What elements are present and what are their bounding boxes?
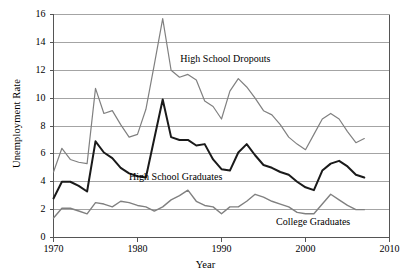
annotation-high-school-graduates: High School Graduates — [129, 171, 222, 182]
y-tick-label-8: 8 — [20, 120, 46, 131]
unemployment-rate-line-chart — [0, 0, 411, 280]
plot-svg — [0, 0, 411, 280]
x-tick-label-1990: 1990 — [202, 243, 242, 254]
y-tick-label-0: 0 — [20, 231, 46, 242]
y-tick-label-14: 14 — [20, 36, 46, 47]
x-axis-label: Year — [0, 259, 411, 270]
y-tick-label-12: 12 — [20, 64, 46, 75]
x-tick-label-1970: 1970 — [34, 243, 74, 254]
x-tick-label-2000: 2000 — [286, 243, 326, 254]
y-tick-label-6: 6 — [20, 147, 46, 158]
annotation-high-school-dropouts: High School Dropouts — [180, 53, 270, 64]
annotation-college-graduates: College Graduates — [276, 216, 350, 227]
y-tick-label-2: 2 — [20, 203, 46, 214]
series-line-high-school-graduates — [54, 100, 365, 199]
x-tick-label-1980: 1980 — [118, 243, 158, 254]
x-tick-label-2010: 2010 — [370, 243, 410, 254]
chart-root: Unemployment Rate Year 0246810121416 197… — [0, 0, 411, 280]
y-tick-label-16: 16 — [20, 8, 46, 19]
y-tick-label-10: 10 — [20, 92, 46, 103]
series-line-college-graduates — [54, 190, 365, 218]
y-tick-label-4: 4 — [20, 175, 46, 186]
